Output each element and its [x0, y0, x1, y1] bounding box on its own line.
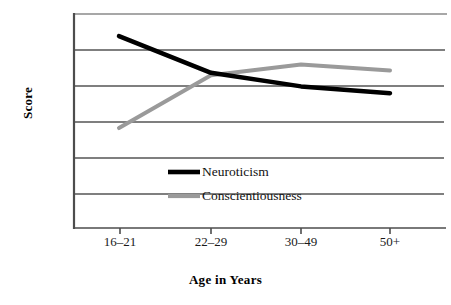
- legend-label-conscientiousness: Conscientiousness: [202, 188, 302, 204]
- series-line-conscientiousness: [119, 65, 390, 129]
- y-axis-title: Score: [20, 63, 36, 143]
- line-chart: Score Age in Years 16–21 22–29 30–49 50+…: [0, 0, 451, 305]
- x-axis-title: Age in Years: [0, 272, 451, 288]
- chart-plot-area: [0, 0, 451, 305]
- x-tick-label-1: 22–29: [171, 234, 251, 250]
- series-line-neuroticism: [119, 36, 390, 93]
- x-tick-label-2: 30–49: [261, 234, 341, 250]
- legend-label-neuroticism: Neuroticism: [202, 164, 269, 180]
- x-tick-label-0: 16–21: [80, 234, 160, 250]
- x-tick-label-3: 50+: [350, 234, 430, 250]
